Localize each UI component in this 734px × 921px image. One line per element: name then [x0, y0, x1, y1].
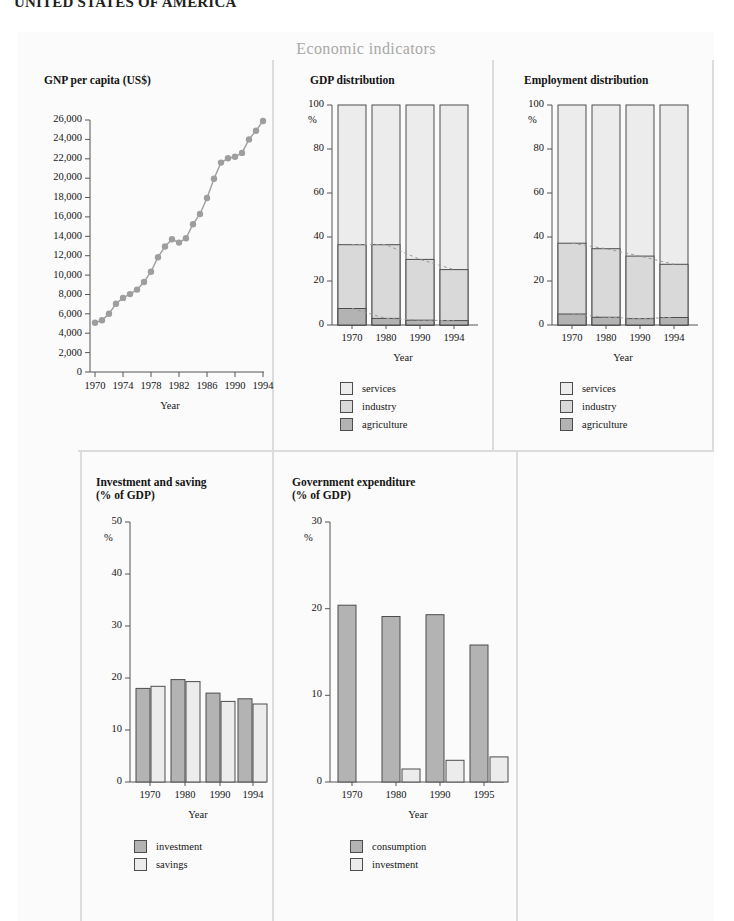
government-xaxis-label: Year: [388, 809, 448, 820]
gdp-xaxis-label: Year: [373, 352, 433, 363]
gnp-ytick-12: 24,000: [26, 132, 82, 143]
government-xtick-0: 1970: [332, 789, 372, 800]
legend-item-investment[interactable]: investment: [350, 858, 426, 871]
panel-employment-distribution: Employment distribution: [494, 60, 712, 450]
gdp-xtick-3: 1994: [434, 332, 474, 343]
legend-label-services: services: [362, 383, 396, 394]
panel-investment-and-saving: Investment and saving (% of GDP): [82, 452, 272, 921]
gnp-ytick-0: 0: [26, 366, 82, 377]
panel-government-expenditure: Government expenditure (% of GDP): [274, 452, 516, 921]
gnp-ytick-2: 4,000: [26, 327, 82, 338]
panel-gdp-distribution: GDP distribution: [274, 60, 492, 450]
gnp-ytick-8: 16,000: [26, 210, 82, 221]
employment-xaxis-label: Year: [593, 352, 653, 363]
legend-swatch-industry: [340, 400, 353, 413]
divider-vertical-6: [516, 452, 518, 921]
legend-label-agriculture: agriculture: [362, 419, 407, 430]
employment-yaxis-label: %: [528, 114, 537, 125]
legend-swatch-investment: [350, 858, 363, 871]
employment-ytick-0: 0: [508, 318, 544, 329]
investment-ytick-5: 50: [86, 515, 122, 526]
figure-title: Economic indicators: [18, 40, 714, 58]
gnp-ytick-7: 14,000: [26, 230, 82, 241]
investment-ytick-0: 0: [86, 775, 122, 786]
gdp-ytick-2: 40: [288, 230, 324, 241]
legend-item-industry[interactable]: industry: [340, 400, 407, 413]
legend-swatch-agriculture: [560, 418, 573, 431]
government-ytick-0: 0: [286, 775, 322, 786]
legend-swatch-industry: [560, 400, 573, 413]
legend-item-industry[interactable]: industry: [560, 400, 627, 413]
gnp-ytick-10: 20,000: [26, 171, 82, 182]
legend-label-industry: industry: [582, 401, 616, 412]
government-xtick-3: 1995: [464, 789, 504, 800]
investment-xtick-1: 1980: [165, 789, 205, 800]
government-ytick-2: 20: [286, 602, 322, 613]
investment-ytick-4: 40: [86, 567, 122, 578]
legend-item-savings[interactable]: savings: [134, 858, 202, 871]
legend-label-investment: investment: [156, 841, 202, 852]
investment-ytick-3: 30: [86, 619, 122, 630]
government-yaxis-label: %: [304, 532, 313, 543]
government-ytick-3: 30: [286, 515, 322, 526]
legend-label-agriculture: agriculture: [582, 419, 627, 430]
employment-ytick-2: 40: [508, 230, 544, 241]
legend-label-consumption: consumption: [372, 841, 426, 852]
legend-label-investment: investment: [372, 859, 418, 870]
gnp-ytick-5: 10,000: [26, 269, 82, 280]
legend-item-services[interactable]: services: [340, 382, 407, 395]
gnp-ytick-3: 6,000: [26, 308, 82, 319]
legend-swatch-savings: [134, 858, 147, 871]
employment-ytick-1: 20: [508, 274, 544, 285]
employment-ytick-5: 100: [508, 98, 544, 109]
investment-ytick-1: 10: [86, 723, 122, 734]
gdp-ytick-4: 80: [288, 142, 324, 153]
legend-swatch-investment: [134, 840, 147, 853]
legend-item-agriculture[interactable]: agriculture: [560, 418, 627, 431]
employment-ytick-4: 80: [508, 142, 544, 153]
investment-xtick-3: 1994: [233, 789, 273, 800]
legend-swatch-consumption: [350, 840, 363, 853]
investment-xtick-0: 1970: [130, 789, 170, 800]
investment-yaxis-label: %: [104, 532, 113, 543]
gdp-yaxis-label: %: [308, 114, 317, 125]
employment-xtick-3: 1994: [654, 332, 694, 343]
divider-vertical-3: [712, 60, 714, 450]
gnp-ytick-1: 2,000: [26, 347, 82, 358]
legend-label-industry: industry: [362, 401, 396, 412]
government-legend: consumption investment: [350, 840, 426, 876]
investment-ytick-2: 20: [86, 671, 122, 682]
legend-item-investment[interactable]: investment: [134, 840, 202, 853]
gdp-ytick-1: 20: [288, 274, 324, 285]
gdp-ytick-0: 0: [288, 318, 324, 329]
gnp-ytick-13: 26,000: [26, 113, 82, 124]
government-xtick-1: 1980: [376, 789, 416, 800]
legend-swatch-agriculture: [340, 418, 353, 431]
gdp-ytick-5: 100: [288, 98, 324, 109]
government-xtick-2: 1990: [420, 789, 460, 800]
legend-swatch-services: [560, 382, 573, 395]
investment-xaxis-label: Year: [168, 809, 228, 820]
government-ytick-1: 10: [286, 688, 322, 699]
employment-ytick-3: 60: [508, 186, 544, 197]
legend-item-consumption[interactable]: consumption: [350, 840, 426, 853]
gnp-xaxis-label: Year: [140, 400, 200, 411]
panel-gnp-per-capita: GNP per capita (US$): [18, 60, 272, 450]
legend-item-agriculture[interactable]: agriculture: [340, 418, 407, 431]
economic-indicators-figure: Economic indicators GNP per capita (US$): [18, 32, 714, 921]
gnp-ytick-4: 8,000: [26, 288, 82, 299]
legend-item-services[interactable]: services: [560, 382, 627, 395]
legend-swatch-services: [340, 382, 353, 395]
gdp-ytick-3: 60: [288, 186, 324, 197]
legend-label-services: services: [582, 383, 616, 394]
gnp-ytick-6: 12,000: [26, 249, 82, 260]
gnp-ytick-11: 22,000: [26, 152, 82, 163]
gdp-legend: services industry agriculture: [340, 382, 407, 436]
legend-label-savings: savings: [156, 859, 188, 870]
investment-legend: investment savings: [134, 840, 202, 876]
employment-legend: services industry agriculture: [560, 382, 627, 436]
page-title: UNITED STATES OF AMERICA: [14, 0, 236, 11]
gnp-ytick-9: 18,000: [26, 191, 82, 202]
